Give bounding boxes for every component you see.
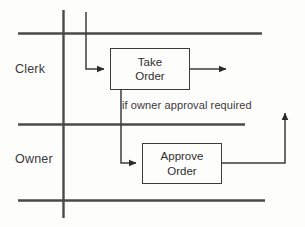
activity-take-order-line1: Take [138, 55, 162, 69]
activity-approve-order-line2: Order [167, 164, 196, 178]
flow-start-to-take-order [86, 12, 104, 69]
activity-approve-order[interactable]: Approve Order [142, 143, 222, 184]
guard-condition-label: if owner approval required [122, 99, 252, 111]
flow-approve-order-return-path [222, 113, 285, 163]
swimlane-canvas [0, 0, 305, 227]
activity-approve-order-line1: Approve [161, 149, 204, 163]
swimlane-diagram: Clerk Owner Take Order Approve Order if … [0, 0, 305, 227]
flow-start-to-take-order-path [86, 12, 104, 69]
lane-label-owner: Owner [15, 152, 53, 166]
activity-take-order-line2: Order [135, 69, 164, 83]
activity-take-order[interactable]: Take Order [110, 48, 190, 90]
lane-label-clerk: Clerk [15, 62, 45, 76]
flow-approve-order-return [222, 113, 285, 163]
